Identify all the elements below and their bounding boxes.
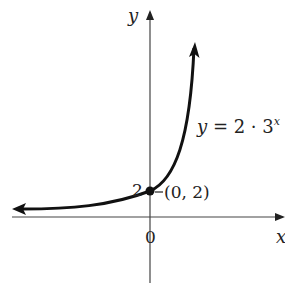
- origin-label: 0: [145, 227, 156, 247]
- point-label: (0, 2): [164, 182, 210, 202]
- y-intercept-label: 2: [132, 180, 143, 200]
- y-axis-label: y: [127, 5, 139, 26]
- equation-label: y = 2 · 3x: [196, 115, 281, 137]
- x-axis-label: x: [276, 226, 285, 247]
- point-0-2: [146, 187, 155, 196]
- exponential-graph: y x 0 2 (0, 2) y = 2 · 3x: [0, 0, 285, 291]
